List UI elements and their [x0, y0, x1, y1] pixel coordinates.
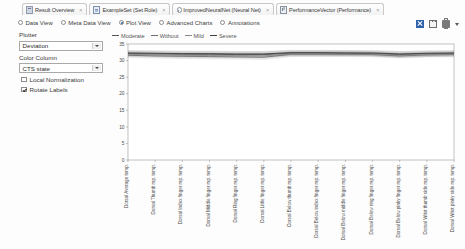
- radio-label: Advanced Charts: [166, 20, 212, 26]
- print-icon[interactable]: [442, 20, 450, 28]
- radio-annotations[interactable]: Annotations: [220, 20, 259, 26]
- plot-view-window: Result Overview × ExampleSet (Set Role) …: [0, 0, 465, 249]
- legend-label: Mild: [194, 33, 204, 39]
- tab-result-overview[interactable]: Result Overview ×: [22, 3, 87, 15]
- tab-label: PerformanceVector (Performance): [289, 7, 371, 13]
- chart-toolbar: [416, 20, 459, 28]
- x-axis-tick-label: Dorsal Below thumb mp. temp.: [287, 164, 292, 227]
- plotter-select[interactable]: Deviation: [19, 41, 103, 51]
- checkbox-indicator: [21, 77, 27, 83]
- radio-advanced-charts[interactable]: Advanced Charts: [159, 20, 213, 26]
- y-axis-tick-label: 35: [119, 42, 125, 47]
- tab-improvedneuralnet[interactable]: ImprovedNeuralNet (Neural Net) ×: [172, 3, 274, 15]
- legend-label: Without: [160, 33, 179, 39]
- color-column-label: Color Column: [19, 54, 103, 62]
- tab-performancevector[interactable]: PerformanceVector (Performance) ×: [276, 3, 384, 15]
- plotter-label: Plotter: [19, 31, 103, 39]
- rotate-labels-checkbox[interactable]: Rotate Labels: [21, 86, 103, 93]
- x-axis-tick-label: Dorsal Below pinky finger mp. temp.: [396, 164, 401, 238]
- x-axis-tick-label: Dorsal Below ring finger mp. temp.: [369, 164, 374, 234]
- y-axis-tick-label: 20: [119, 91, 125, 96]
- checkbox-label: Local Normalization: [30, 76, 84, 83]
- plot-area: 05101520253035Dorsal Average temp.Dorsal…: [106, 40, 458, 245]
- legend-item: Mild: [185, 33, 204, 39]
- legend-line-icon: [112, 35, 119, 36]
- y-axis-tick-label: 15: [119, 108, 125, 113]
- y-axis-tick-label: 25: [119, 75, 125, 80]
- x-axis-tick-label: Dorsal Below middle finger mp. temp.: [341, 164, 346, 240]
- legend-item: Without: [151, 33, 179, 39]
- tab-label: ImprovedNeuralNet (Neural Net): [183, 7, 261, 13]
- deviation-chart: ModerateWithoutMildSevere 05101520253035…: [106, 31, 458, 246]
- legend-label: Severe: [219, 33, 237, 39]
- performance-icon: [280, 6, 287, 14]
- legend-line-icon: [185, 35, 192, 36]
- tab-close-icon[interactable]: ×: [266, 7, 269, 13]
- neural-net-icon: [176, 7, 181, 13]
- radio-label: Annotations: [228, 20, 260, 26]
- radio-indicator: [61, 20, 66, 25]
- plotter-value: Deviation: [23, 42, 49, 49]
- x-axis-tick-label: Dorsal Middle finger mp. temp.: [206, 164, 211, 227]
- chevron-down-icon[interactable]: [92, 65, 101, 71]
- color-column-select[interactable]: CTS state: [19, 63, 103, 73]
- y-axis-tick-label: 10: [119, 125, 125, 130]
- x-axis-tick-label: Dorsal Average temp.: [124, 164, 129, 208]
- chevron-down-icon[interactable]: [92, 43, 101, 49]
- y-axis-tick-label: 0: [122, 158, 125, 163]
- tab-label: Result Overview: [35, 7, 74, 13]
- tab-close-icon[interactable]: ×: [79, 7, 82, 13]
- tab-close-icon[interactable]: ×: [376, 7, 379, 13]
- result-tab-bar: Result Overview × ExampleSet (Set Role) …: [22, 2, 456, 15]
- color-column-value: CTS state: [23, 65, 51, 72]
- x-axis-tick-label: Dorsal Index finger mp. temp.: [178, 164, 183, 224]
- dropdown-caret-icon[interactable]: [455, 23, 459, 26]
- table-icon: [93, 6, 100, 14]
- x-axis-tick-label: Dorsal Thumb mp. temp.: [151, 164, 156, 214]
- radio-indicator: [119, 20, 124, 25]
- radio-indicator: [220, 20, 225, 25]
- tab-close-icon[interactable]: ×: [162, 7, 165, 13]
- y-axis-tick-label: 5: [122, 141, 125, 146]
- legend-line-icon: [210, 35, 217, 36]
- legend-line-icon: [151, 35, 158, 36]
- radio-indicator: [18, 20, 23, 25]
- local-normalization-checkbox[interactable]: Local Normalization: [21, 76, 103, 83]
- x-axis-tick-label: Dorsal Ring finger mp. temp.: [233, 164, 238, 222]
- legend-item: Moderate: [112, 33, 145, 39]
- plot-svg: 05101520253035Dorsal Average temp.Dorsal…: [106, 40, 458, 245]
- legend-label: Moderate: [121, 33, 145, 39]
- plot-settings-panel: Plotter Deviation Color Column CTS state…: [19, 31, 103, 93]
- tab-exampleset[interactable]: ExampleSet (Set Role) ×: [89, 3, 170, 15]
- radio-label: Plot View: [126, 20, 151, 26]
- chart-legend: ModerateWithoutMildSevere: [106, 31, 458, 40]
- x-axis-tick-label: Dorsal Below index finger mp. temp.: [314, 164, 319, 238]
- x-axis-tick-label: Dorsal Wrist thumb side mp. temp.: [423, 164, 428, 234]
- x-axis-tick-label: Dorsal Little finger mp. temp.: [260, 164, 265, 223]
- radio-plot-view[interactable]: Plot View: [119, 20, 151, 26]
- y-axis-tick-label: 30: [119, 58, 125, 63]
- radio-label: Meta Data View: [68, 20, 110, 26]
- copy-icon[interactable]: [429, 20, 437, 28]
- x-axis-tick-label: Dorsal Wrist pinky side mp. temp.: [450, 164, 455, 232]
- export-icon[interactable]: [416, 20, 424, 28]
- radio-indicator: [159, 20, 164, 25]
- radio-label: Data View: [26, 20, 53, 26]
- radio-data-view[interactable]: Data View: [18, 20, 53, 26]
- view-mode-radio-group: Data View Meta Data View Plot View Advan…: [18, 17, 260, 28]
- result-overview-icon: [26, 6, 33, 14]
- checkbox-indicator: [21, 87, 27, 93]
- checkbox-label: Rotate Labels: [30, 86, 68, 93]
- tab-label: ExampleSet (Set Role): [102, 7, 157, 13]
- radio-meta-data-view[interactable]: Meta Data View: [61, 20, 111, 26]
- legend-item: Severe: [210, 33, 237, 39]
